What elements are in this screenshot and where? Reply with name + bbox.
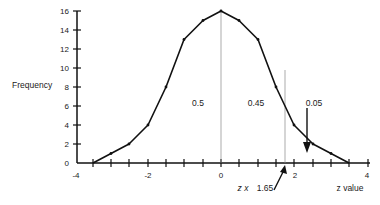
y-tick-labels: 16 14 12 10 8 6 4 2 0: [60, 7, 69, 168]
x-tick-neg2: -2: [144, 171, 152, 180]
y-tick-4: 4: [65, 121, 70, 130]
x-axis-label: z value: [337, 183, 364, 193]
y-tick-12: 12: [60, 45, 69, 54]
x-tick-4: 4: [365, 171, 370, 180]
critical-arrowhead-icon: [280, 165, 287, 174]
y-tick-14: 14: [60, 26, 69, 35]
y-tick-8: 8: [65, 83, 70, 92]
y-tick-6: 6: [65, 102, 70, 111]
area-tail-label: 0.05: [306, 98, 323, 108]
x-tick-2: 2: [293, 171, 298, 180]
area-mid-label: 0.45: [248, 98, 265, 108]
x-tick-0: 0: [219, 171, 224, 180]
zx-value-label: 1.65: [257, 183, 274, 193]
x-tick-labels: -4 -2 0 2 4: [72, 171, 369, 180]
x-tick-neg4: -4: [72, 171, 80, 180]
area-left-label: 0.5: [192, 98, 204, 108]
tail-arrowhead-icon: [303, 142, 311, 153]
normal-distribution-chart: 16 14 12 10 8 6 4 2 0 Frequency -4 -2 0 …: [0, 0, 380, 205]
critical-arrow: [274, 172, 283, 190]
y-axis-label: Frequency: [12, 80, 53, 90]
y-tick-16: 16: [60, 7, 69, 16]
y-tick-0: 0: [65, 159, 70, 168]
zx-label: z x: [237, 183, 250, 193]
y-tick-2: 2: [65, 140, 70, 149]
y-tick-10: 10: [60, 64, 69, 73]
